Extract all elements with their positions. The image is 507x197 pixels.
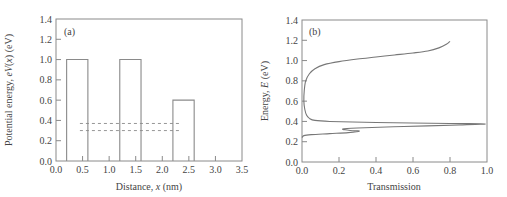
panel-b-marks xyxy=(302,41,485,137)
panel-a-y-tick-label: 0.2 xyxy=(40,135,53,146)
panel-a-x-tick-label: 3.5 xyxy=(236,164,249,175)
potential-barrier xyxy=(67,60,88,161)
panel-b-label: (b) xyxy=(309,26,321,38)
panel-a-x-axis-title: Distance, x (nm) xyxy=(116,181,182,193)
panel-a-y-tick-label: 0.6 xyxy=(40,95,53,106)
panel-b-x-tick-label: 1.0 xyxy=(481,165,494,176)
panel-b-x-axis-title: Transmission xyxy=(367,181,421,192)
panel-a-y-tick-label: 0.8 xyxy=(40,74,53,85)
panel-a-y-tick-label: 1.2 xyxy=(40,34,53,45)
panel-b-x-tick-label: 0.2 xyxy=(333,165,346,176)
panel-a-x-tick-label: 1.5 xyxy=(129,164,142,175)
figure: 0.00.51.01.52.02.53.03.50.00.20.40.60.81… xyxy=(0,0,507,197)
panel-a-y-tick-label: 0.4 xyxy=(40,115,53,126)
panel-b-y-tick-label: 0.0 xyxy=(286,157,299,168)
panel-a-x-tick-label: 2.5 xyxy=(183,164,196,175)
panel-a-x-tick-label: 2.0 xyxy=(156,164,169,175)
panel-a-x-tick-label: 0.5 xyxy=(76,164,89,175)
panel-a-y-tick-label: 0.0 xyxy=(40,156,53,167)
panel-a-y-axis-title: Potential energy, eV(x) (eV) xyxy=(3,34,15,146)
transmission-curve xyxy=(302,41,485,137)
panel-a-x-tick-label: 3.0 xyxy=(209,164,222,175)
panel-a-y-tick-label: 1.0 xyxy=(40,54,53,65)
panel-b-ticks: 0.00.20.40.60.81.00.00.20.40.60.81.01.21… xyxy=(286,15,494,177)
panel-a-x-tick-label: 1.0 xyxy=(103,164,116,175)
panel-a-marks xyxy=(67,60,195,161)
panel-b-y-tick-label: 1.0 xyxy=(286,55,299,66)
panel-b-x-tick-label: 0.4 xyxy=(370,165,383,176)
panel-a-frame xyxy=(56,19,242,161)
panel-b-x-tick-label: 0.6 xyxy=(407,165,420,176)
panel-b-x-tick-label: 0.8 xyxy=(444,165,457,176)
panel-a-potential-profile: 0.00.51.01.52.02.53.03.50.00.20.40.60.81… xyxy=(3,14,248,194)
potential-barrier xyxy=(120,60,141,161)
panel-b-y-tick-label: 0.8 xyxy=(286,75,299,86)
panel-b-y-axis-title: Energy, E (eV) xyxy=(259,61,271,121)
panel-b-y-tick-label: 0.2 xyxy=(286,136,299,147)
panel-b-y-tick-label: 0.4 xyxy=(286,116,299,127)
panel-b-frame xyxy=(302,20,487,162)
panel-a-ticks: 0.00.51.01.52.02.53.03.50.00.20.40.60.81… xyxy=(40,14,249,176)
panel-a-y-tick-label: 1.4 xyxy=(40,14,53,25)
panel-a-label: (a) xyxy=(64,26,75,38)
panel-b-y-tick-label: 1.4 xyxy=(286,15,299,26)
panel-b-transmission: 0.00.20.40.60.81.00.00.20.40.60.81.01.21… xyxy=(259,15,493,193)
panel-b-y-tick-label: 0.6 xyxy=(286,96,299,107)
panel-b-y-tick-label: 1.2 xyxy=(286,35,299,46)
